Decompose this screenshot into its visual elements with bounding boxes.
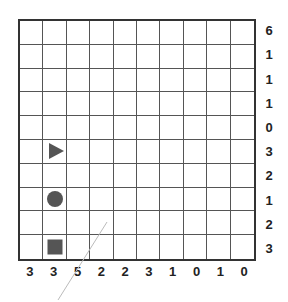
grid-cell[interactable] bbox=[231, 116, 254, 140]
grid-cell[interactable] bbox=[137, 188, 160, 212]
grid-cell[interactable] bbox=[67, 164, 90, 188]
grid-cell[interactable] bbox=[207, 69, 230, 93]
grid-cell[interactable] bbox=[231, 45, 254, 69]
grid-cell[interactable] bbox=[114, 92, 137, 116]
grid-cell[interactable] bbox=[67, 21, 90, 45]
grid-cell[interactable] bbox=[90, 211, 113, 235]
grid-cell[interactable] bbox=[67, 140, 90, 164]
grid-cell[interactable] bbox=[114, 235, 137, 259]
grid-cell[interactable] bbox=[160, 140, 183, 164]
grid-cell[interactable] bbox=[20, 235, 43, 259]
grid-cell[interactable] bbox=[231, 69, 254, 93]
grid-cell[interactable] bbox=[207, 140, 230, 164]
grid-cell[interactable] bbox=[43, 21, 66, 45]
grid-cell[interactable] bbox=[207, 211, 230, 235]
grid-cell[interactable] bbox=[20, 45, 43, 69]
grid-cell[interactable] bbox=[231, 188, 254, 212]
grid-cell[interactable] bbox=[160, 116, 183, 140]
grid-cell[interactable] bbox=[67, 211, 90, 235]
grid-cell[interactable] bbox=[114, 21, 137, 45]
grid-cell[interactable] bbox=[184, 140, 207, 164]
grid-cell[interactable] bbox=[43, 45, 66, 69]
grid-cell[interactable] bbox=[20, 92, 43, 116]
grid-cell[interactable] bbox=[114, 45, 137, 69]
grid-cell[interactable] bbox=[43, 211, 66, 235]
grid-cell[interactable] bbox=[20, 164, 43, 188]
grid-cell[interactable] bbox=[137, 116, 160, 140]
grid-cell[interactable] bbox=[207, 235, 230, 259]
grid-cell[interactable] bbox=[43, 140, 66, 164]
grid-cell[interactable] bbox=[231, 235, 254, 259]
grid-cell[interactable] bbox=[184, 92, 207, 116]
grid-cell[interactable] bbox=[137, 235, 160, 259]
grid-cell[interactable] bbox=[207, 188, 230, 212]
grid-cell[interactable] bbox=[43, 164, 66, 188]
grid-cell[interactable] bbox=[184, 211, 207, 235]
grid-cell[interactable] bbox=[20, 69, 43, 93]
grid-cell[interactable] bbox=[114, 164, 137, 188]
grid-cell[interactable] bbox=[160, 164, 183, 188]
grid-cell[interactable] bbox=[160, 211, 183, 235]
grid-cell[interactable] bbox=[20, 116, 43, 140]
grid-cell[interactable] bbox=[207, 116, 230, 140]
grid-cell[interactable] bbox=[160, 235, 183, 259]
grid-cell[interactable] bbox=[67, 116, 90, 140]
grid-cell[interactable] bbox=[207, 21, 230, 45]
grid-cell[interactable] bbox=[90, 188, 113, 212]
grid-cell[interactable] bbox=[67, 69, 90, 93]
grid-cell[interactable] bbox=[43, 116, 66, 140]
grid-cell[interactable] bbox=[231, 21, 254, 45]
grid-cell[interactable] bbox=[160, 45, 183, 69]
grid-cell[interactable] bbox=[114, 211, 137, 235]
grid-cell[interactable] bbox=[137, 21, 160, 45]
grid-cell[interactable] bbox=[231, 92, 254, 116]
grid-cell[interactable] bbox=[67, 45, 90, 69]
grid-cell[interactable] bbox=[231, 140, 254, 164]
grid-cell[interactable] bbox=[231, 164, 254, 188]
grid-cell[interactable] bbox=[90, 164, 113, 188]
grid-cell[interactable] bbox=[67, 188, 90, 212]
grid-cell[interactable] bbox=[184, 69, 207, 93]
grid-cell[interactable] bbox=[114, 188, 137, 212]
grid-cell[interactable] bbox=[160, 21, 183, 45]
grid-cell[interactable] bbox=[90, 21, 113, 45]
grid-cell[interactable] bbox=[114, 69, 137, 93]
grid-cell[interactable] bbox=[184, 45, 207, 69]
grid-cell[interactable] bbox=[231, 211, 254, 235]
grid-cell[interactable] bbox=[160, 69, 183, 93]
grid-cell[interactable] bbox=[90, 45, 113, 69]
grid-cell[interactable] bbox=[137, 164, 160, 188]
grid-cell[interactable] bbox=[67, 92, 90, 116]
grid-cell[interactable] bbox=[43, 92, 66, 116]
grid-cell[interactable] bbox=[67, 235, 90, 259]
grid-cell[interactable] bbox=[43, 188, 66, 212]
grid-cell[interactable] bbox=[184, 188, 207, 212]
grid-cell[interactable] bbox=[137, 140, 160, 164]
grid-cell[interactable] bbox=[184, 116, 207, 140]
grid-cell[interactable] bbox=[160, 92, 183, 116]
grid-cell[interactable] bbox=[137, 45, 160, 69]
grid-cell[interactable] bbox=[137, 69, 160, 93]
grid-cell[interactable] bbox=[160, 188, 183, 212]
grid-cell[interactable] bbox=[90, 69, 113, 93]
grid-cell[interactable] bbox=[184, 21, 207, 45]
grid-cell[interactable] bbox=[20, 140, 43, 164]
grid-cell[interactable] bbox=[90, 92, 113, 116]
grid-cell[interactable] bbox=[114, 116, 137, 140]
grid-cell[interactable] bbox=[20, 21, 43, 45]
grid-cell[interactable] bbox=[43, 235, 66, 259]
grid-cell[interactable] bbox=[90, 235, 113, 259]
grid-cell[interactable] bbox=[184, 164, 207, 188]
grid-cell[interactable] bbox=[137, 92, 160, 116]
grid-cell[interactable] bbox=[20, 211, 43, 235]
grid-cell[interactable] bbox=[114, 140, 137, 164]
grid-cell[interactable] bbox=[207, 92, 230, 116]
grid-cell[interactable] bbox=[20, 188, 43, 212]
grid-cell[interactable] bbox=[207, 45, 230, 69]
grid-cell[interactable] bbox=[207, 164, 230, 188]
grid-cell[interactable] bbox=[43, 69, 66, 93]
grid-cell[interactable] bbox=[184, 235, 207, 259]
grid-cell[interactable] bbox=[90, 140, 113, 164]
grid-cell[interactable] bbox=[137, 211, 160, 235]
grid-cell[interactable] bbox=[90, 116, 113, 140]
